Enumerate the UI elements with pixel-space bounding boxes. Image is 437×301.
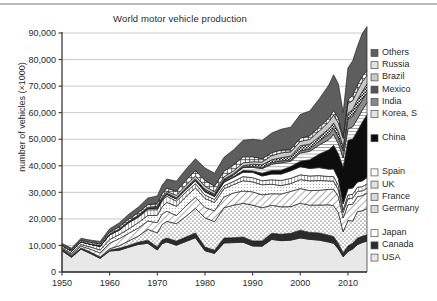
x-tick-label: 2000 — [290, 278, 310, 288]
y-tick-label: 90,000 — [28, 28, 56, 38]
legend-label-uk: UK — [382, 179, 395, 189]
legend-swatch-mexico — [371, 86, 378, 93]
y-tick-label: 80,000 — [28, 55, 56, 65]
legend-label-spain: Spain — [382, 166, 405, 176]
legend-swatch-brazil — [371, 74, 378, 81]
chart-figure: World motor vehicle production number of… — [0, 0, 437, 301]
y-tick-label: 60,000 — [28, 108, 56, 118]
x-tick-label: 1970 — [147, 278, 167, 288]
x-axis-ticks: 1950196019701980199020002010 — [52, 272, 358, 288]
legend-label-korea-s: Korea, S — [382, 108, 417, 118]
x-tick-label: 1960 — [100, 278, 120, 288]
legend-swatch-china — [371, 135, 378, 142]
y-tick-label: 20,000 — [28, 214, 56, 224]
y-tick-label: 70,000 — [28, 81, 56, 91]
y-tick-label: 10,000 — [28, 241, 56, 251]
x-tick-label: 1950 — [52, 278, 72, 288]
legend-label-india: India — [382, 96, 402, 106]
legend-label-canada: Canada — [382, 239, 414, 249]
chart-legend: OthersRussiaBrazilMexicoIndiaKorea, SChi… — [371, 47, 420, 262]
legend-label-others: Others — [382, 47, 410, 57]
legend-label-usa: USA — [382, 252, 401, 262]
legend-swatch-india — [371, 98, 378, 105]
y-tick-label: 50,000 — [28, 134, 56, 144]
legend-label-japan: Japan — [382, 227, 407, 237]
legend-swatch-russia — [371, 62, 378, 69]
stacked-area-plot: 010,00020,00030,00040,00050,00060,00070,… — [0, 0, 437, 301]
legend-label-russia: Russia — [382, 59, 410, 69]
legend-swatch-spain — [371, 169, 378, 176]
y-tick-label: 0 — [51, 267, 56, 277]
y-axis-ticks: 010,00020,00030,00040,00050,00060,00070,… — [28, 28, 62, 277]
legend-swatch-korea-s — [371, 111, 378, 118]
legend-label-brazil: Brazil — [382, 71, 405, 81]
legend-swatch-france — [371, 193, 378, 200]
x-tick-label: 2010 — [338, 278, 358, 288]
legend-swatch-germany — [371, 206, 378, 213]
legend-label-germany: Germany — [382, 203, 420, 213]
legend-swatch-japan — [371, 230, 378, 237]
legend-label-china: China — [382, 132, 406, 142]
legend-label-mexico: Mexico — [382, 84, 411, 94]
y-tick-label: 40,000 — [28, 161, 56, 171]
legend-label-france: France — [382, 191, 410, 201]
legend-swatch-canada — [371, 242, 378, 249]
x-tick-label: 1990 — [243, 278, 263, 288]
y-tick-label: 30,000 — [28, 188, 56, 198]
legend-swatch-usa — [371, 254, 378, 261]
legend-swatch-others — [371, 50, 378, 57]
legend-swatch-uk — [371, 181, 378, 188]
area-series-layer — [62, 27, 367, 272]
x-tick-label: 1980 — [195, 278, 215, 288]
